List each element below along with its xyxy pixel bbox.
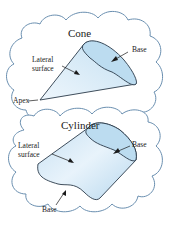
cone-lateral-label-line1: Lateral — [32, 56, 53, 64]
cone-base-label: Base — [132, 46, 147, 54]
diagram-canvas: Cone Lateral surface Base Apex Cylinder … — [0, 0, 171, 243]
cylinder-title: Cylinder — [61, 120, 100, 131]
cone-title: Cone — [68, 28, 91, 39]
cylinder-base-top-label: Base — [132, 141, 147, 149]
cylinder-lateral-label-line1: Lateral — [18, 142, 39, 150]
cylinder-base-bottom-label: Base — [42, 206, 57, 214]
cylinder-lateral-label-line2: surface — [18, 151, 40, 159]
cone-apex-label: Apex — [13, 97, 29, 105]
cone-lateral-label-line2: surface — [32, 65, 54, 73]
